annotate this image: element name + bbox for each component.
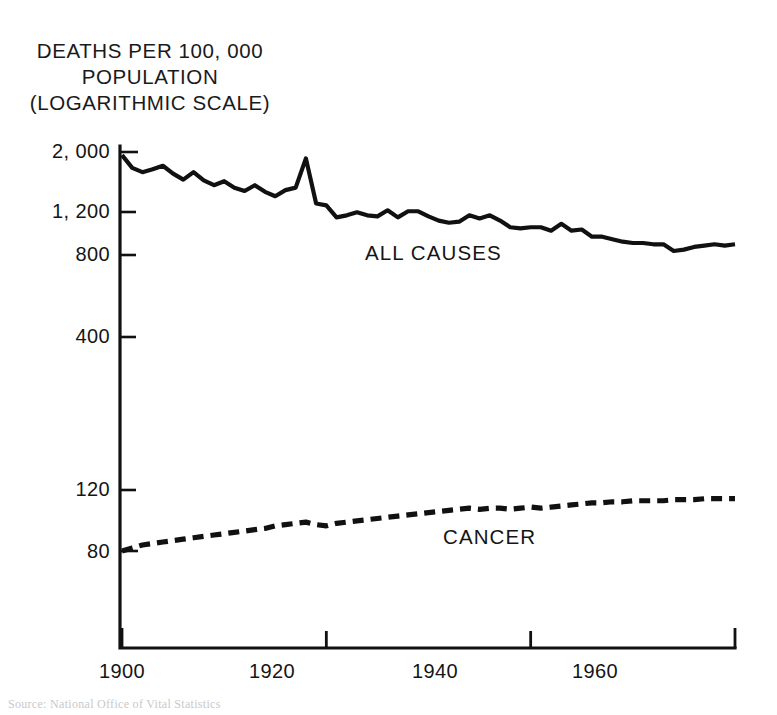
series-line-cancer: [122, 499, 735, 551]
plot-area: [0, 0, 777, 715]
axis-ticks: [120, 152, 735, 648]
series-lines: [122, 155, 735, 551]
chart-figure: DEATHS PER 100, 000 POPULATION (LOGARITH…: [0, 0, 777, 715]
axes-lines: [120, 146, 735, 648]
series-line-all-causes: [122, 155, 735, 251]
source-note: Source: National Office of Vital Statist…: [8, 697, 221, 712]
